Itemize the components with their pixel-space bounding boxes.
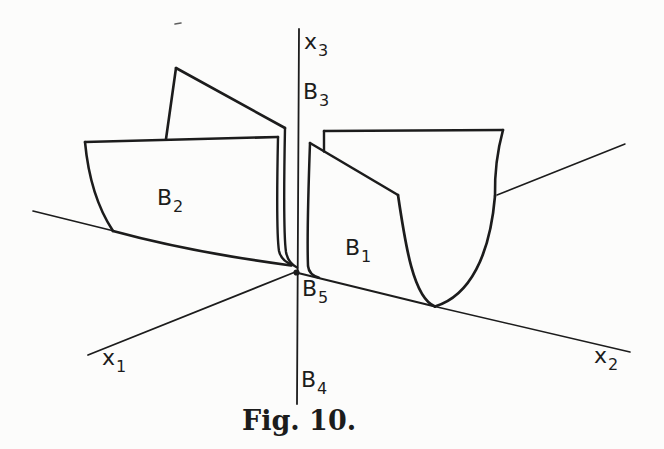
region-label-b1-main: B xyxy=(345,235,360,260)
x3-axis-label-main: x xyxy=(304,29,317,54)
x1-axis-label: x1 xyxy=(102,347,125,369)
x3-axis-label: x3 xyxy=(304,31,327,53)
region-label-b2-sub: 2 xyxy=(173,197,183,216)
b1-parabola-left-branch xyxy=(398,195,435,307)
region-label-b2-main: B xyxy=(157,185,172,210)
figure-caption: Fig. 10. xyxy=(242,406,356,436)
b2-left-edge xyxy=(85,142,113,231)
stray-mark xyxy=(175,23,181,24)
region-label-b5: B5 xyxy=(302,278,327,300)
region-label-b4-main: B xyxy=(301,367,316,392)
region-label-b3-sub: 3 xyxy=(319,91,329,110)
region-label-b1-sub: 1 xyxy=(361,247,371,266)
region-label-b5-main: B xyxy=(302,276,317,301)
x1-axis-line-upper xyxy=(497,144,625,195)
x2-axis-line-upper-left xyxy=(33,211,114,231)
b2-flap-right-edge xyxy=(284,128,297,268)
x1-axis-label-sub: 1 xyxy=(116,357,126,376)
origin-point xyxy=(293,269,299,275)
b2-top-edge xyxy=(85,137,278,142)
region-label-b2: B2 xyxy=(157,187,182,209)
region-label-b5-sub: 5 xyxy=(318,288,328,307)
x1-axis-label-main: x xyxy=(102,345,115,370)
figure-drawing xyxy=(0,0,664,449)
b2-flap-top-edge xyxy=(176,68,285,128)
b2-bottom-edge xyxy=(113,231,291,266)
region-label-b3: B3 xyxy=(303,81,328,103)
b1-right-edge-upper xyxy=(495,130,503,196)
b1-left-edge xyxy=(308,143,319,278)
region-label-b1: B1 xyxy=(345,237,370,259)
x3-axis-label-sub: 3 xyxy=(318,41,328,60)
x2-axis-label: x2 xyxy=(594,345,617,367)
region-label-b3-main: B xyxy=(303,79,318,104)
b1-parabola-right-branch xyxy=(435,196,495,307)
b1-top-edge xyxy=(324,130,503,131)
x1-axis-line-lower xyxy=(88,273,294,356)
b2-flap-left-edge xyxy=(166,68,176,139)
x2-axis-label-main: x xyxy=(594,343,607,368)
x2-axis-label-sub: 2 xyxy=(608,355,618,374)
region-label-b4-sub: 4 xyxy=(317,379,327,398)
figure-10: x3 B3 B2 B1 B5 B4 x1 x2 Fig. 10. xyxy=(0,0,664,449)
region-label-b4: B4 xyxy=(301,369,326,391)
x3-axis-line xyxy=(297,29,299,404)
